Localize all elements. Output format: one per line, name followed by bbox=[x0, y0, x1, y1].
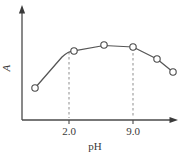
data-curve bbox=[35, 46, 173, 89]
data-point-marker bbox=[154, 56, 160, 62]
x-tick-label-ph-9: 9.0 bbox=[126, 125, 140, 137]
data-point-marker bbox=[101, 42, 107, 48]
data-point-marker bbox=[170, 69, 176, 75]
data-point-marker bbox=[71, 48, 77, 54]
x-axis-title: pH bbox=[88, 140, 102, 152]
data-point-marker bbox=[130, 44, 136, 50]
ph-response-chart: 2.0 9.0 pH A bbox=[0, 0, 182, 154]
y-axis-arrowhead bbox=[19, 5, 25, 14]
y-axis-title: A bbox=[0, 64, 12, 72]
x-axis-arrowhead bbox=[170, 117, 179, 123]
chart-canvas: 2.0 9.0 pH A bbox=[0, 0, 182, 154]
x-tick-label-ph-2: 2.0 bbox=[62, 125, 76, 137]
data-point-marker bbox=[32, 85, 38, 91]
